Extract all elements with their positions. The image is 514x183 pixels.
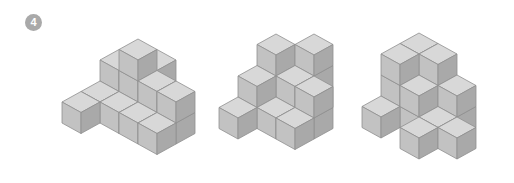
cube-figure-1 <box>62 39 195 155</box>
cube-figure-2 <box>219 34 333 150</box>
isometric-cube-figures <box>0 0 514 183</box>
cube-figure-3 <box>362 33 476 159</box>
